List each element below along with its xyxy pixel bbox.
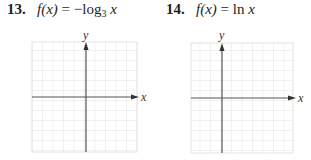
problem-14-y-label: y xyxy=(218,28,225,42)
problem-13-graph: x y xyxy=(32,28,147,152)
problem-13-y-label: y xyxy=(82,28,89,42)
problem-14-graph: x y xyxy=(191,28,304,153)
problem-14-x-label: x xyxy=(297,91,304,105)
problem-13-x-label: x xyxy=(140,90,147,104)
graphs-canvas: x y x y xyxy=(0,0,311,160)
